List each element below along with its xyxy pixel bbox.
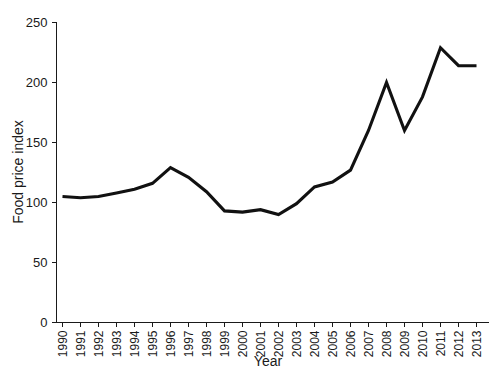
x-tick-label: 2007 [362,330,376,357]
y-tick-label: 100 [26,195,48,210]
x-tick-label: 1993 [110,330,124,357]
x-tick-label: 2008 [380,330,394,357]
x-tick-label: 2009 [398,330,412,357]
y-tick-label: 50 [33,255,47,270]
x-tick-label: 1995 [146,330,160,357]
y-tick-label: 250 [26,15,48,30]
x-tick-label: 2012 [452,330,466,357]
x-tick-label: 1990 [56,330,70,357]
x-tick-label: 1991 [74,330,88,357]
x-tick-label: 2011 [434,330,448,356]
x-tick-label: 1999 [218,330,232,357]
food-price-index-line [63,48,477,215]
x-tick-label: 1994 [128,330,142,357]
x-tick-label: 1997 [182,330,196,357]
y-axis-title: Food price index [10,120,26,224]
line-chart-canvas: 050100150200250 199019911992199319941995… [0,0,496,377]
y-axis-tick-labels: 050100150200250 [26,15,48,330]
x-axis-title: Year [254,353,283,369]
x-tick-label: 2000 [236,330,250,357]
y-tick-label: 0 [40,315,47,330]
x-tick-label: 2003 [290,330,304,357]
y-tick-label: 200 [26,75,48,90]
x-tick-label: 2005 [326,330,340,357]
y-tick-label: 150 [26,135,48,150]
chart-figure: 050100150200250 199019911992199319941995… [0,0,496,377]
x-tick-label: 2013 [470,330,484,357]
x-tick-label: 2010 [416,330,430,357]
x-tick-label: 1992 [92,330,106,357]
x-tick-label: 1996 [164,330,178,357]
x-tick-label: 2004 [308,330,322,357]
x-tick-label: 2006 [344,330,358,357]
x-tick-label: 1998 [200,330,214,357]
